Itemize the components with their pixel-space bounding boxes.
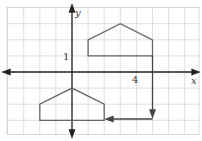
y-tick-label-1: 1	[63, 51, 69, 62]
x-tick-label-4: 4	[132, 74, 138, 85]
x-axis	[3, 70, 199, 75]
arrowhead-left-icon	[106, 117, 113, 122]
y-axis-up-arrow-icon	[70, 5, 75, 12]
x-axis-label: x	[191, 75, 197, 86]
grid-border	[7, 8, 199, 135]
coordinate-plane-svg: y x 1 4	[0, 0, 202, 141]
y-axis-down-arrow-icon	[70, 130, 75, 137]
coordinate-plane-figure: y x 1 4	[0, 0, 202, 141]
translate-left-arrow	[106, 117, 153, 122]
x-axis-left-arrow-icon	[3, 70, 10, 75]
grid-lines	[7, 8, 199, 135]
y-axis-label: y	[74, 7, 81, 18]
y-axis	[70, 5, 75, 137]
arrowhead-down-icon	[150, 110, 155, 117]
x-axis-right-arrow-icon	[192, 70, 199, 75]
translate-down-arrow	[150, 56, 155, 117]
